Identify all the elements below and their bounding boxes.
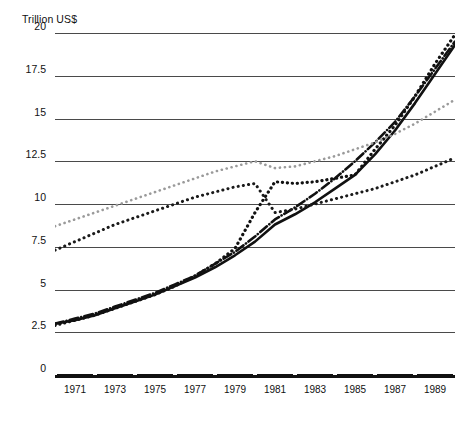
x-axis-tick-label: 1977 [173,384,217,395]
x-axis-tick-label: 1987 [373,384,417,395]
x-axis-segment [377,374,413,378]
y-axis-tick-label: 17.5 [12,63,46,75]
y-axis-tick-label: 12.5 [12,148,46,160]
series-layer [55,33,455,375]
series-light-dotted [55,100,455,227]
series-thick-dotted [55,35,455,326]
x-axis-segment [137,374,173,378]
y-axis-tick-label: 7.5 [12,234,46,246]
x-axis-segment [297,374,333,378]
y-axis-tick-label: 15 [12,106,46,118]
x-axis-segment [97,374,133,378]
y-axis-tick-label: 2.5 [12,319,46,331]
x-axis-tick-label: 1975 [133,384,177,395]
x-axis-tick-label: 1985 [333,384,377,395]
chart-container: Trillion US$ 02.557.51012.51517.520 1971… [0,0,463,423]
x-axis-line [55,374,455,378]
x-axis-segment [217,374,253,378]
x-axis-tick-label: 1981 [253,384,297,395]
x-axis-tick-label: 1979 [213,384,257,395]
x-axis-segment [57,374,93,378]
y-axis-tick-label: 5 [12,277,46,289]
x-axis-segment [337,374,373,378]
y-axis-tick-label: 20 [12,20,46,32]
x-axis-tick-label: 1983 [293,384,337,395]
x-axis-tick-label: 1973 [93,384,137,395]
x-axis-tick-label: 1989 [413,384,457,395]
x-axis-segment [177,374,213,378]
plot-area [55,33,455,375]
y-axis-tick-label: 0 [12,362,46,374]
x-axis-tick-label: 1971 [53,384,97,395]
y-axis-tick-label: 10 [12,191,46,203]
series-dashdot [55,42,455,324]
x-axis-segment [257,374,293,378]
x-axis-segment [417,374,453,378]
